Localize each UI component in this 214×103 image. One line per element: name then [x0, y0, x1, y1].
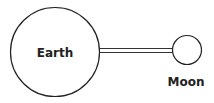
moon-circle — [173, 36, 202, 65]
earth-label: Earth — [37, 46, 74, 60]
earth-moon-diagram: Earth Moon — [0, 0, 214, 103]
moon-label: Moon — [168, 75, 205, 89]
earth-moon-connector — [99, 49, 173, 53]
